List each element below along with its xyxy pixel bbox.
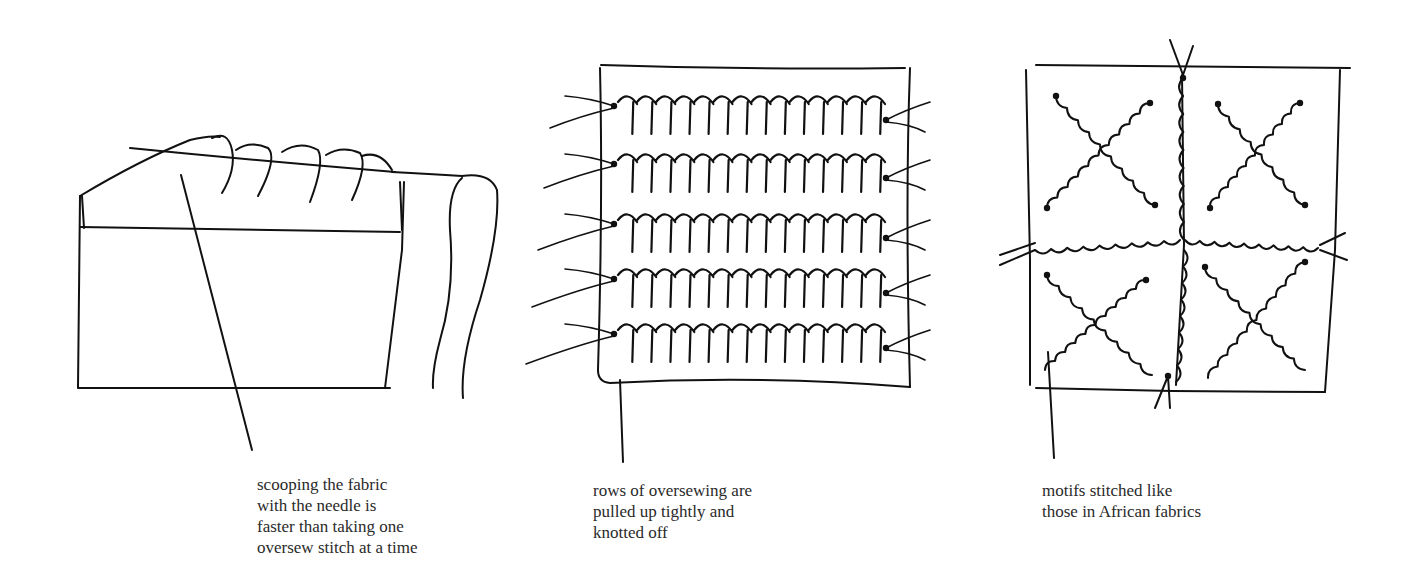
scooping-sketch xyxy=(78,136,497,450)
caption-line: motifs stitched like xyxy=(1042,480,1201,501)
caption-scooping: scooping the fabric with the needle is f… xyxy=(257,474,418,558)
caption-motifs: motifs stitched like those in African fa… xyxy=(1042,480,1201,522)
caption-line: rows of oversewing are xyxy=(593,480,752,501)
caption-line: pulled up tightly and xyxy=(593,501,752,522)
figure-canvas: scooping the fabric with the needle is f… xyxy=(0,0,1414,585)
rows-pointer xyxy=(620,380,623,462)
rows-stitches xyxy=(526,96,930,364)
caption-rows: rows of oversewing are pulled up tightly… xyxy=(593,480,752,543)
caption-line: those in African fabrics xyxy=(1042,501,1201,522)
rows-sketch xyxy=(598,65,910,387)
caption-line: scooping the fabric xyxy=(257,474,418,495)
motifs-stitches xyxy=(1035,75,1318,382)
caption-line: faster than taking one xyxy=(257,516,418,537)
caption-line: knotted off xyxy=(593,522,752,543)
caption-line: oversew stitch at a time xyxy=(257,537,418,558)
caption-line: with the needle is xyxy=(257,495,418,516)
